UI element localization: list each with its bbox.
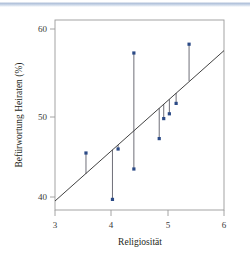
x-axis-ticks — [55, 210, 224, 216]
plot-frame — [55, 20, 224, 210]
y-axis-ticks — [50, 29, 55, 197]
data-point[interactable] — [162, 117, 165, 120]
data-point[interactable] — [158, 137, 161, 140]
data-point[interactable] — [132, 167, 135, 170]
top-decorative-band — [0, 0, 250, 7]
x-tick-label-5: 5 — [166, 220, 171, 230]
scatter-plot-figure: 60 50 40 3 4 5 6 Religiosität Befürwortu… — [0, 7, 250, 257]
x-axis-title: Religiosität — [118, 237, 162, 247]
y-tick-label-60: 60 — [38, 24, 48, 34]
plot-svg: 60 50 40 3 4 5 6 Religiosität Befürwortu… — [0, 7, 250, 257]
x-tick-label-3: 3 — [53, 220, 58, 230]
data-point[interactable] — [187, 43, 190, 46]
y-axis-title: Befürwortung Heiraten (%) — [14, 63, 25, 168]
data-point[interactable] — [168, 112, 171, 115]
y-tick-label-50: 50 — [38, 112, 48, 122]
data-point[interactable] — [132, 51, 135, 54]
x-tick-label-6: 6 — [222, 220, 227, 230]
x-tick-label-4: 4 — [109, 220, 114, 230]
data-layer — [55, 43, 224, 201]
y-tick-label-40: 40 — [38, 192, 48, 202]
data-point[interactable] — [116, 147, 119, 150]
data-point[interactable] — [84, 151, 87, 154]
data-point[interactable] — [175, 102, 178, 105]
data-point[interactable] — [111, 198, 114, 201]
figure-container: 60 50 40 3 4 5 6 Religiosität Befürwortu… — [0, 0, 250, 257]
regression-line — [55, 51, 224, 201]
